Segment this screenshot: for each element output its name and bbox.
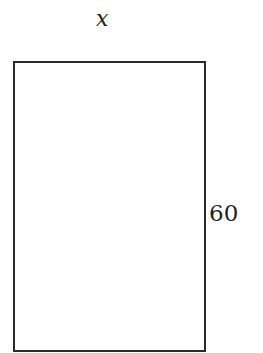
height-label: 60	[209, 200, 238, 226]
rectangle-shape	[13, 61, 206, 352]
width-label: x	[96, 6, 108, 31]
